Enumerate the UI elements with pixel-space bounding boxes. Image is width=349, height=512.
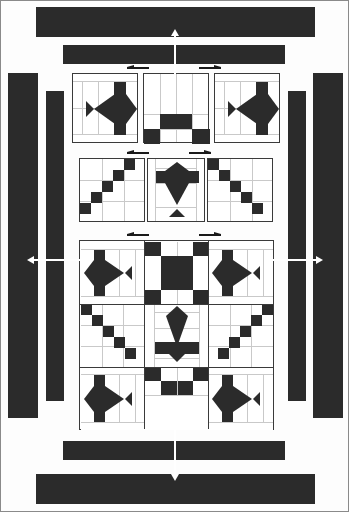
fish-head-triangle xyxy=(84,260,94,286)
seam-line xyxy=(145,395,209,396)
arrow-head-up-icon xyxy=(171,29,179,36)
quilt-assembly-diagram xyxy=(0,0,349,512)
fish-head-triangle xyxy=(268,94,279,124)
seam-line xyxy=(155,207,197,208)
row3-left-orientation-arrow xyxy=(127,232,149,237)
arrow-head-right-icon xyxy=(214,65,221,69)
row3-right-orientation-arrow xyxy=(199,232,221,237)
row2-left-orientation-arrow xyxy=(127,150,149,155)
seam-line xyxy=(177,290,178,304)
seam-line xyxy=(135,374,136,423)
patch-dark xyxy=(145,242,161,256)
block-diagonal-right xyxy=(207,158,273,222)
fish-fin-triangle xyxy=(169,209,185,217)
assembly-seam-horizontal xyxy=(80,304,273,305)
seam-line xyxy=(177,367,178,395)
assembly-seam-vertical xyxy=(208,241,209,429)
patch-dark xyxy=(80,203,91,214)
fish-body xyxy=(156,171,199,183)
fish-tail-wedge xyxy=(236,94,257,124)
patch-dark xyxy=(125,348,136,359)
side-diagonal-right xyxy=(209,304,273,367)
arrow-shaft xyxy=(174,33,176,79)
patch-dark xyxy=(219,170,230,181)
seam-line xyxy=(135,249,136,297)
corner-fish-bottom-left xyxy=(81,367,145,430)
fish-fin-triangle xyxy=(169,354,185,362)
patch-dark xyxy=(208,159,219,170)
bottom-assembly-arrow xyxy=(169,429,181,481)
fish-head-triangle xyxy=(166,306,188,316)
fish-fin-triangle xyxy=(253,392,260,406)
patch-dark xyxy=(241,192,252,203)
center-fish xyxy=(145,304,209,367)
patch-dark xyxy=(114,337,125,348)
fish-body xyxy=(114,82,126,135)
patch-dark xyxy=(230,181,241,192)
seam-line xyxy=(123,304,124,367)
right-outer-border-strip xyxy=(313,73,343,418)
assembly-seam-horizontal xyxy=(80,367,273,368)
fish-fin-triangle xyxy=(125,392,132,406)
patch-dark xyxy=(193,290,209,304)
fish-fin-triangle xyxy=(228,101,236,117)
fish-tail-wedge xyxy=(94,94,115,124)
block-diagonal-left xyxy=(79,158,145,222)
patch-dark xyxy=(161,256,193,290)
right-inner-sashing-strip xyxy=(288,91,306,401)
seam-line xyxy=(230,304,231,367)
patch-dark xyxy=(251,315,262,326)
patch-dark xyxy=(193,242,209,256)
patch-dark xyxy=(145,290,161,304)
left-outer-border-strip xyxy=(8,73,38,418)
left-inner-sashing-strip xyxy=(46,91,64,401)
corner-fish-top-right xyxy=(209,242,273,304)
patch-dark xyxy=(124,159,135,170)
patch-dark xyxy=(103,326,114,337)
arrow-head-down-icon xyxy=(171,474,179,481)
fish-tail-wedge xyxy=(105,260,124,286)
patch-dark xyxy=(160,114,192,129)
fish-tail-wedge xyxy=(233,260,252,286)
patch-dark xyxy=(102,181,113,192)
arrow-head-left-icon xyxy=(27,256,34,264)
left-assembly-arrow xyxy=(27,254,83,266)
seam-line xyxy=(251,304,252,367)
seam-line xyxy=(80,201,144,202)
patch-dark xyxy=(113,170,124,181)
row1-right-orientation-arrow xyxy=(199,65,221,70)
patch-dark xyxy=(252,203,263,214)
fish-fin-triangle xyxy=(125,266,132,280)
top-assembly-arrow xyxy=(169,29,181,79)
arrow-shaft xyxy=(174,429,176,476)
assembled-quilt-center xyxy=(79,240,274,430)
fish-tail-wedge xyxy=(233,386,252,412)
fish-head-triangle xyxy=(126,94,137,124)
arrow-head-right-icon xyxy=(204,150,211,154)
patch-dark xyxy=(81,304,92,315)
arrow-head-left-icon xyxy=(127,65,134,69)
row2-right-orientation-arrow xyxy=(189,150,211,155)
fish-tail-wedge xyxy=(105,386,124,412)
patch-dark xyxy=(262,304,273,315)
block-fish-top-right xyxy=(214,73,280,143)
seam-line xyxy=(263,374,264,423)
fish-body xyxy=(222,375,233,422)
fish-fin-triangle xyxy=(86,101,94,117)
fish-body xyxy=(256,82,268,135)
fish-body xyxy=(94,250,105,296)
fish-body xyxy=(222,250,233,296)
seam-line xyxy=(209,346,273,347)
block-checker-top-center xyxy=(143,73,209,143)
seam-line xyxy=(263,249,264,297)
fish-head-triangle xyxy=(212,260,222,286)
patch-dark xyxy=(145,367,161,381)
patch-dark xyxy=(92,315,103,326)
block-fish-top-left xyxy=(72,73,138,143)
fish-body xyxy=(155,342,199,354)
fish-head-triangle xyxy=(212,386,222,412)
patch-dark xyxy=(144,129,160,144)
center-checker-top xyxy=(145,242,209,304)
patch-dark xyxy=(229,337,240,348)
corner-fish-top-left xyxy=(81,242,145,304)
